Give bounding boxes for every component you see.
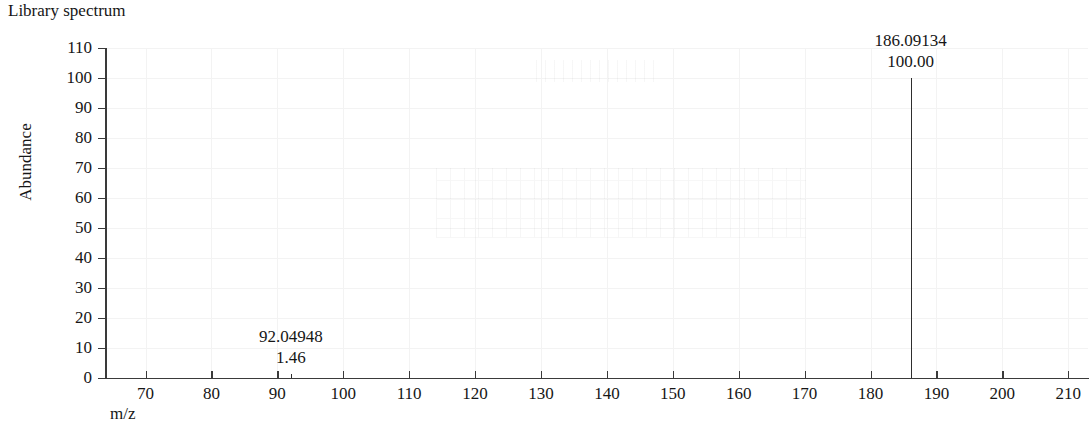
gridline-horizontal: [106, 168, 1088, 169]
x-axis-tick-label: 80: [181, 384, 241, 403]
gridline-vertical: [936, 48, 937, 378]
y-axis-tick-label: 100: [30, 69, 92, 86]
x-axis-tick: [871, 371, 872, 379]
gridline-horizontal: [106, 138, 1088, 139]
x-axis-tick: [475, 371, 476, 379]
gridline-vertical: [146, 48, 147, 378]
gridline-horizontal: [106, 108, 1088, 109]
y-axis-tick: [98, 288, 106, 289]
peak-label: 92.049481.46: [201, 326, 381, 368]
gridline-vertical: [409, 48, 410, 378]
x-axis-tick: [805, 371, 806, 379]
y-axis-tick: [98, 78, 106, 79]
y-axis-tick: [98, 318, 106, 319]
gridline-horizontal: [106, 318, 1088, 319]
x-axis-tick: [541, 371, 542, 379]
x-axis-tick-label: 90: [247, 384, 307, 403]
y-axis-tick-label: 60: [30, 189, 92, 206]
gridline-horizontal: [106, 228, 1088, 229]
y-axis-tick-label: 70: [30, 159, 92, 176]
x-axis-tick: [1068, 371, 1069, 379]
gridline-horizontal: [106, 258, 1088, 259]
peak-mz-value: 186.09134: [821, 30, 1001, 51]
gridline-vertical: [673, 48, 674, 378]
gridline-vertical: [739, 48, 740, 378]
peak-label: 186.09134100.00: [821, 30, 1001, 72]
peak-abundance-value: 1.46: [201, 347, 381, 368]
gridline-horizontal: [106, 78, 1088, 79]
x-axis-tick-label: 180: [841, 384, 901, 403]
x-axis-tick-label: 120: [445, 384, 505, 403]
gridline-vertical: [1002, 48, 1003, 378]
gridline-vertical: [871, 48, 872, 378]
y-axis-tick-label: 90: [30, 99, 92, 116]
x-axis-tick-label: 210: [1038, 384, 1089, 403]
chart-title: Library spectrum: [8, 1, 126, 21]
x-axis-tick-label: 150: [643, 384, 703, 403]
gridline-horizontal: [106, 198, 1088, 199]
gridline-vertical: [475, 48, 476, 378]
x-axis-tick: [1002, 371, 1003, 379]
y-axis-tick: [98, 48, 106, 49]
library-spectrum-chart: Library spectrum Abundance 0102030405060…: [0, 0, 1089, 433]
y-axis-tick-label: 0: [30, 369, 92, 386]
gridline-vertical: [1068, 48, 1069, 378]
y-axis-tick: [98, 228, 106, 229]
y-axis-tick: [98, 258, 106, 259]
y-axis-tick: [98, 168, 106, 169]
x-axis-tick-label: 110: [379, 384, 439, 403]
x-axis-tick-label: 190: [906, 384, 966, 403]
x-axis-tick-label: 130: [511, 384, 571, 403]
gridline-vertical: [541, 48, 542, 378]
x-axis-line: [105, 378, 1089, 379]
x-axis-tick-label: 100: [313, 384, 373, 403]
y-axis-tick-label: 110: [30, 39, 92, 56]
x-axis-tick: [739, 371, 740, 379]
spectrum-peak[interactable]: [911, 78, 913, 378]
gridline-vertical: [607, 48, 608, 378]
y-axis-tick-label: 30: [30, 279, 92, 296]
x-axis-tick: [146, 371, 147, 379]
x-axis-tick: [211, 371, 212, 379]
y-axis-tick: [98, 348, 106, 349]
x-axis-tick: [607, 371, 608, 379]
x-axis-tick-label: 200: [972, 384, 1032, 403]
x-axis-tick-label: 170: [775, 384, 835, 403]
y-axis-tick-label: 10: [30, 339, 92, 356]
x-axis-tick: [673, 371, 674, 379]
y-axis-tick-label: 80: [30, 129, 92, 146]
gridline-vertical: [805, 48, 806, 378]
x-axis-title: m/z: [110, 404, 136, 424]
y-axis-tick-label: 40: [30, 249, 92, 266]
y-axis-tick: [98, 378, 106, 379]
y-axis-line: [105, 48, 107, 379]
peak-mz-value: 92.04948: [201, 326, 381, 347]
x-axis-tick: [277, 371, 278, 379]
x-axis-tick-label: 160: [709, 384, 769, 403]
y-axis-tick-label: 20: [30, 309, 92, 326]
y-axis-tick-label: 50: [30, 219, 92, 236]
x-axis-tick-label: 140: [577, 384, 637, 403]
y-axis-tick: [98, 108, 106, 109]
x-axis-tick-label: 70: [116, 384, 176, 403]
y-axis-tick: [98, 138, 106, 139]
x-axis-tick: [343, 371, 344, 379]
gridline-horizontal: [106, 288, 1088, 289]
y-axis-tick: [98, 198, 106, 199]
x-axis-tick: [409, 371, 410, 379]
x-axis-tick: [936, 371, 937, 379]
peak-abundance-value: 100.00: [821, 51, 1001, 72]
